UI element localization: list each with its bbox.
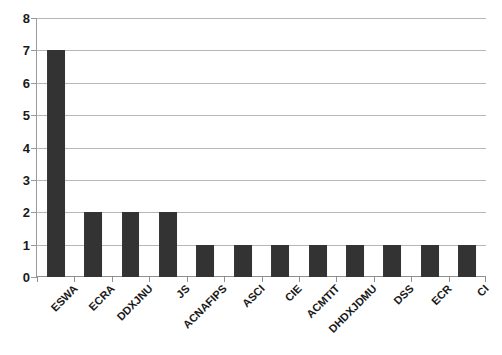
bar-slot <box>336 18 373 277</box>
y-axis-tickmark <box>31 50 37 51</box>
y-axis-tick-label: 1 <box>0 238 30 251</box>
bar-series <box>37 18 486 277</box>
x-axis-tick-label: ESWA <box>49 283 80 314</box>
bar[interactable] <box>346 245 364 277</box>
bar-slot <box>224 18 261 277</box>
bar[interactable] <box>196 245 214 277</box>
x-axis-tickmark <box>187 277 188 282</box>
bar-slot <box>449 18 486 277</box>
x-axis-tick-label: ECRA <box>87 283 117 313</box>
bar-slot <box>112 18 149 277</box>
y-axis-tickmark <box>31 212 37 213</box>
y-axis-tick-label: 7 <box>0 44 30 57</box>
bar-slot <box>149 18 186 277</box>
x-axis-tick-label: ECR <box>429 283 454 308</box>
x-axis-tickmark <box>411 277 412 282</box>
x-axis-tickmark <box>485 277 486 282</box>
y-axis-tickmark <box>31 245 37 246</box>
bar[interactable] <box>309 245 327 277</box>
bar[interactable] <box>458 245 476 277</box>
y-axis-tickmark <box>31 115 37 116</box>
bar[interactable] <box>421 245 439 277</box>
bar-slot <box>374 18 411 277</box>
bar[interactable] <box>122 212 140 277</box>
y-axis-tick-label: 3 <box>0 173 30 186</box>
x-axis-tick-label: DSS <box>392 283 416 307</box>
y-axis-tickmark <box>31 18 37 19</box>
x-axis-tickmark <box>336 277 337 282</box>
y-axis-tickmark <box>31 277 37 278</box>
bar-chart: 012345678 ESWAECRADDXJNUJSACNAFIPSASCICI… <box>0 0 502 355</box>
y-axis-tick-label: 0 <box>0 271 30 284</box>
y-axis-tick-label: 5 <box>0 109 30 122</box>
x-axis-tickmark <box>299 277 300 282</box>
x-axis-tickmark <box>374 277 375 282</box>
y-axis-tick-labels: 012345678 <box>0 18 30 276</box>
bar-slot <box>74 18 111 277</box>
bar-slot <box>187 18 224 277</box>
x-axis-tickmark <box>149 277 150 282</box>
y-axis-tickmark <box>31 180 37 181</box>
bar-slot <box>299 18 336 277</box>
bar[interactable] <box>84 212 102 277</box>
bar-slot <box>411 18 448 277</box>
bar[interactable] <box>271 245 289 277</box>
x-axis-tick-labels: ESWAECRADDXJNUJSACNAFIPSASCICIEACMTITDHD… <box>37 283 486 355</box>
x-axis-tickmark <box>224 277 225 282</box>
y-axis-tick-label: 8 <box>0 12 30 25</box>
x-axis-tickmark <box>37 277 38 282</box>
x-axis-tick-label: JS <box>174 283 192 301</box>
y-axis-tickmark <box>31 83 37 84</box>
y-axis-tickmark <box>31 148 37 149</box>
y-axis-tick-label: 2 <box>0 206 30 219</box>
x-axis-tickmark <box>74 277 75 282</box>
bar[interactable] <box>383 245 401 277</box>
x-axis-tick-label: CI <box>476 283 492 299</box>
x-axis-tickmark <box>449 277 450 282</box>
x-axis-tick-label: CIE <box>283 283 304 304</box>
bar-slot <box>37 18 74 277</box>
bar[interactable] <box>47 50 65 277</box>
x-axis-tickmark <box>112 277 113 282</box>
bar-slot <box>262 18 299 277</box>
x-axis-tickmark <box>262 277 263 282</box>
bar[interactable] <box>234 245 252 277</box>
x-axis-tick-label: ASCI <box>240 283 267 310</box>
y-axis-tick-label: 4 <box>0 141 30 154</box>
plot-area <box>37 18 486 277</box>
x-axis-tick-label: DDXJNU <box>115 283 155 323</box>
y-axis-tick-label: 6 <box>0 76 30 89</box>
bar[interactable] <box>159 212 177 277</box>
